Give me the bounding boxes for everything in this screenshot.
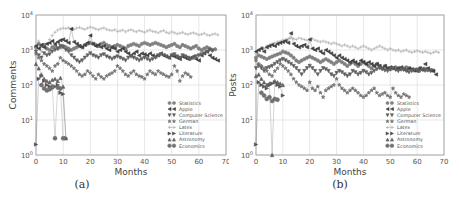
svg-text:German: German xyxy=(397,119,416,124)
svg-text:20: 20 xyxy=(86,158,95,166)
svg-text:10: 10 xyxy=(278,158,287,166)
x-axis-ticks: 010203040506070 xyxy=(254,158,449,166)
svg-text:10: 10 xyxy=(59,158,68,166)
svg-text:Statistics: Statistics xyxy=(179,101,201,106)
svg-text:Computer Science: Computer Science xyxy=(397,113,441,118)
y-axis-label: Comments xyxy=(8,60,18,109)
svg-text:Computer Science: Computer Science xyxy=(179,113,223,118)
svg-text:Apple: Apple xyxy=(397,107,411,112)
svg-text:101: 101 xyxy=(241,115,253,125)
posts-scatter-chart: 010203040506070100101102103104MonthsPost… xyxy=(229,0,459,204)
svg-text:30: 30 xyxy=(113,158,122,166)
svg-text:100: 100 xyxy=(21,150,33,160)
svg-text:103: 103 xyxy=(241,45,253,55)
svg-text:40: 40 xyxy=(140,158,149,166)
svg-text:Literature: Literature xyxy=(397,131,421,136)
chart-panel-comments: 010203040506070100101102103104MonthsComm… xyxy=(0,0,229,204)
svg-text:60: 60 xyxy=(413,158,422,166)
svg-text:102: 102 xyxy=(21,80,33,90)
svg-text:70: 70 xyxy=(222,158,229,166)
svg-text:50: 50 xyxy=(386,158,395,166)
svg-text:50: 50 xyxy=(167,158,176,166)
svg-text:100: 100 xyxy=(241,150,253,160)
svg-text:Astronomy: Astronomy xyxy=(179,137,205,142)
svg-text:Statistics: Statistics xyxy=(397,101,419,106)
comments-scatter-chart: 010203040506070100101102103104MonthsComm… xyxy=(0,0,229,204)
chart-panel-posts: 010203040506070100101102103104MonthsPost… xyxy=(229,0,458,204)
svg-text:Apple: Apple xyxy=(179,107,193,112)
x-axis-label: Months xyxy=(115,167,148,177)
svg-text:Latex: Latex xyxy=(397,125,410,130)
svg-text:20: 20 xyxy=(305,158,314,166)
svg-text:Economics: Economics xyxy=(397,144,423,149)
y-axis-label: Posts xyxy=(229,73,238,97)
caption-b: (b) xyxy=(320,178,360,191)
svg-text:0: 0 xyxy=(254,158,258,166)
y-axis-ticks: 100101102103104 xyxy=(241,10,253,160)
svg-text:101: 101 xyxy=(21,115,33,125)
x-axis-label: Months xyxy=(334,167,367,177)
svg-text:60: 60 xyxy=(194,158,203,166)
svg-text:102: 102 xyxy=(241,80,253,90)
x-axis-ticks: 010203040506070 xyxy=(34,158,229,166)
svg-text:103: 103 xyxy=(21,45,33,55)
svg-text:Astronomy: Astronomy xyxy=(397,137,423,142)
svg-text:70: 70 xyxy=(440,158,449,166)
svg-text:0: 0 xyxy=(34,158,38,166)
svg-text:Latex: Latex xyxy=(179,125,192,130)
y-axis-ticks: 100101102103104 xyxy=(21,10,33,160)
svg-text:Literature: Literature xyxy=(179,131,203,136)
svg-text:104: 104 xyxy=(241,10,253,20)
svg-text:German: German xyxy=(179,119,198,124)
svg-text:104: 104 xyxy=(21,10,33,20)
svg-text:Economics: Economics xyxy=(179,144,205,149)
svg-text:40: 40 xyxy=(359,158,368,166)
caption-a: (a) xyxy=(62,178,102,191)
svg-text:30: 30 xyxy=(332,158,341,166)
